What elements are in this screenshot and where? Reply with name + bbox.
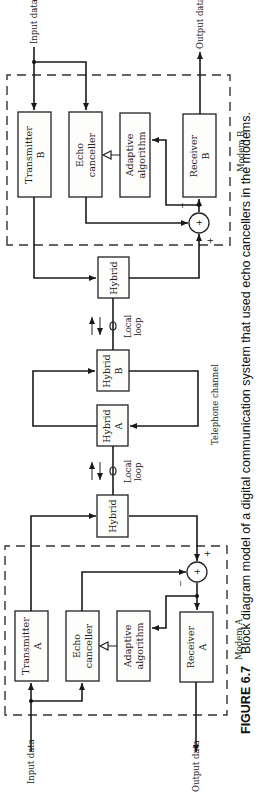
svg-text:Echo: Echo	[71, 634, 82, 658]
telephone-channel-label: Telephone channel	[210, 364, 220, 445]
hybrid-a-block: Hybrid A	[97, 405, 128, 446]
echo-canceller-b-block: Echo canceller	[69, 112, 102, 197]
svg-text:A: A	[197, 643, 208, 651]
svg-text:Adaptive: Adaptive	[122, 624, 133, 668]
adaptive-algorithm-a-block: Adaptive algorithm	[117, 611, 150, 681]
svg-text:B: B	[200, 152, 211, 159]
output-data-a-label: Output data	[191, 740, 201, 792]
channel-b-to-a-wire	[129, 371, 198, 426]
svg-text:Transmitter: Transmitter	[20, 617, 31, 675]
echo-a-to-summer-wire	[82, 572, 186, 611]
svg-text:B: B	[113, 367, 124, 374]
channel-a-to-b-wire	[33, 371, 97, 426]
adaptation-arrow-icon-a	[100, 642, 117, 650]
transmitter-a-block: Transmitter A	[15, 611, 48, 681]
svg-text:Transmitter: Transmitter	[23, 126, 34, 184]
receiver-b-block: Receiver B	[183, 114, 216, 197]
svg-text:Echo: Echo	[74, 143, 85, 167]
tx-a-to-hybrid-wire	[31, 516, 96, 611]
svg-text:Adaptive: Adaptive	[124, 133, 135, 177]
svg-text:Hybrid: Hybrid	[108, 261, 119, 294]
svg-text:canceller: canceller	[86, 132, 97, 177]
hybrid-to-summer-b-wire	[129, 234, 199, 278]
figure-canvas: Modem A Transmitter A Echo canceller Ada…	[0, 0, 259, 792]
transmitter-b-block: Transmitter B	[18, 112, 51, 197]
svg-text:algorithm: algorithm	[136, 131, 147, 178]
local-loop-b-label: Local	[123, 314, 133, 338]
svg-text:+: +	[195, 219, 204, 226]
adaptive-algorithm-b-block: Adaptive algorithm	[120, 113, 150, 197]
echo-canceller-a-block: Echo canceller	[66, 611, 99, 681]
output-data-b-label: Output data	[195, 0, 205, 49]
figure-caption: FIGURE 6.7 Block diagram model of a digi…	[236, 112, 253, 734]
input-data-a-label: Input data	[26, 739, 36, 784]
svg-text:A: A	[32, 642, 43, 650]
input-data-b-label: Input data	[29, 0, 39, 44]
svg-text:Receiver: Receiver	[188, 134, 199, 177]
svg-text:loop: loop	[133, 462, 143, 481]
svg-text:canceller: canceller	[83, 623, 94, 668]
hybrid-b-block: Hybrid B	[97, 350, 129, 391]
svg-text:loop: loop	[133, 317, 143, 336]
hybrid-b-side-block: Hybrid	[98, 257, 129, 298]
svg-text:A: A	[113, 422, 124, 430]
svg-text:+: +	[206, 237, 215, 244]
svg-text:Hybrid: Hybrid	[101, 354, 112, 387]
receiver-a-block: Receiver A	[180, 612, 213, 682]
local-loop-a-label: Local	[123, 459, 133, 483]
svg-text:Receiver: Receiver	[185, 625, 196, 668]
svg-text:+: +	[193, 568, 202, 575]
input-to-echo-wire-a	[31, 683, 82, 701]
echo-b-to-summer-wire	[86, 197, 188, 223]
svg-text:algorithm: algorithm	[134, 622, 145, 669]
adaptation-arrow-icon-b	[103, 151, 120, 159]
summer-a: + − +	[176, 550, 212, 587]
svg-text:Hybrid: Hybrid	[101, 409, 112, 442]
svg-text:−: −	[176, 580, 185, 587]
hybrid-to-summer-a-wire	[129, 516, 197, 561]
input-to-echo-wire-b	[34, 62, 86, 110]
svg-text:B: B	[35, 151, 46, 158]
hybrid-a-side-block: Hybrid	[97, 495, 128, 537]
svg-text:+: +	[203, 550, 212, 557]
svg-text:Hybrid: Hybrid	[107, 499, 118, 532]
